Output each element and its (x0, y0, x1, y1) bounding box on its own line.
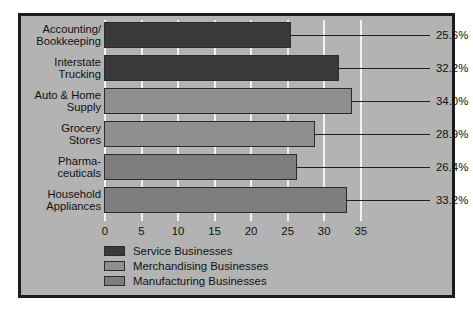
category-label: Grocery Stores (21, 122, 101, 147)
bar (104, 88, 352, 114)
bar (104, 187, 347, 213)
bar-row: 33.2% (104, 187, 452, 213)
chart-frame: Accounting/ BookkeepingInterstate Trucki… (18, 13, 455, 298)
axis-tick-label: 0 (102, 225, 108, 237)
legend-swatch (104, 246, 125, 256)
legend-swatch (104, 261, 125, 271)
category-label: Pharma- ceuticals (21, 155, 101, 180)
value-label: 26.4% (436, 161, 468, 173)
bar-row: 25.6% (104, 22, 452, 48)
value-label: 25.6% (436, 29, 468, 41)
legend-item: Service Businesses (104, 244, 269, 257)
bar-row: 26.4% (104, 154, 452, 180)
bar (104, 55, 339, 81)
value-axis: 05101520253035 (21, 221, 452, 243)
value-leader-line (339, 68, 430, 69)
axis-tick-label: 5 (138, 225, 144, 237)
bar (104, 22, 291, 48)
bar-row: 28.9% (104, 121, 452, 147)
value-leader-line (352, 101, 430, 102)
category-label: Accounting/ Bookkeeping (21, 23, 101, 48)
bar-row: 34.0% (104, 88, 452, 114)
bar (104, 121, 315, 147)
axis-tick-label: 30 (318, 225, 331, 237)
axis-tick-label: 20 (245, 225, 258, 237)
value-leader-line (347, 200, 430, 201)
legend-label: Service Businesses (133, 245, 232, 257)
value-leader-line (297, 167, 430, 168)
legend-swatch (104, 276, 125, 286)
value-leader-line (291, 35, 430, 36)
axis-tick-label: 15 (208, 225, 221, 237)
value-label: 28.9% (436, 128, 468, 140)
legend-item: Manufacturing Businesses (104, 274, 269, 287)
axis-tick-label: 10 (172, 225, 185, 237)
category-label: Household Appliances (21, 188, 101, 213)
value-label: 32.2% (436, 62, 468, 74)
axis-tick-label: 35 (354, 225, 367, 237)
bar (104, 154, 297, 180)
legend-label: Manufacturing Businesses (133, 275, 267, 287)
value-label: 33.2% (436, 194, 468, 206)
legend-label: Merchandising Businesses (133, 260, 269, 272)
chart-legend: Service BusinessesMerchandising Business… (104, 244, 269, 289)
bar-row: 32.2% (104, 55, 452, 81)
value-leader-line (315, 134, 430, 135)
axis-tick-label: 25 (281, 225, 294, 237)
plot-region: Accounting/ BookkeepingInterstate Trucki… (21, 16, 452, 223)
legend-item: Merchandising Businesses (104, 259, 269, 272)
category-label: Auto & Home Supply (21, 89, 101, 114)
value-label: 34.0% (436, 95, 468, 107)
category-label: Interstate Trucking (21, 56, 101, 81)
